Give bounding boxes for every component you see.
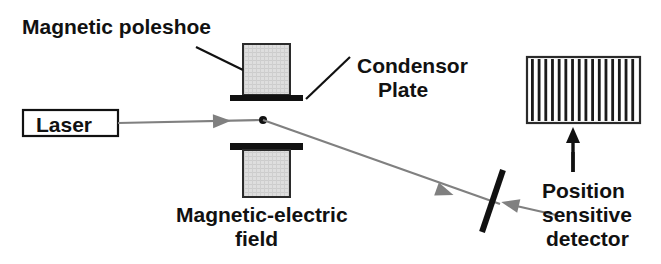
condensor-plate-label-line1: Condensor <box>357 54 468 77</box>
detector-stripe <box>631 59 634 121</box>
magnetic-electric-field-label-line1: Magnetic-electric <box>176 203 348 226</box>
mirror-pointer-head <box>501 199 520 213</box>
detector-stripe <box>618 59 621 121</box>
detector-stripe <box>625 59 628 121</box>
detector-stripe <box>585 59 588 121</box>
upper-condensor-plate <box>230 95 303 101</box>
laser-label: Laser <box>36 113 92 136</box>
position-sensitive-detector <box>527 57 640 123</box>
lower-pole-assembly <box>230 143 303 197</box>
beam-segment-horizontal <box>118 114 263 128</box>
mirror-element <box>482 170 503 232</box>
diagram-canvas: Laser <box>0 0 661 264</box>
detector-stripe <box>605 59 608 121</box>
beam-segment-deflected <box>263 120 500 204</box>
laser-source: Laser <box>23 110 118 136</box>
detector-stripe <box>571 59 574 121</box>
detector-arrow-head <box>566 127 580 143</box>
magnetic-electric-field-label-line2: field <box>235 227 278 250</box>
upper-pole-assembly <box>230 44 303 101</box>
physics-diagram: Laser <box>0 0 661 264</box>
detector-body <box>527 57 640 123</box>
condensor-leader-line-upper <box>306 57 350 99</box>
poleshoe-leader-line <box>196 47 243 70</box>
lower-magnetic-poleshoe <box>243 150 290 197</box>
upper-magnetic-poleshoe <box>243 44 290 95</box>
detector-stripe <box>598 59 601 121</box>
detector-stripe <box>564 59 567 121</box>
position-detector-label-line3: detector <box>546 227 629 250</box>
detector-stripe <box>558 59 561 121</box>
detector-stripe <box>531 59 534 121</box>
condensor-plate-label-line2: Plate <box>378 78 428 101</box>
position-detector-label-line2: sensitive <box>542 203 632 226</box>
detector-stripe <box>551 59 554 121</box>
beam-line-incident <box>118 120 263 123</box>
beam-arrowhead-incident <box>213 114 231 128</box>
position-detector-label-line1: Position <box>542 179 625 202</box>
detector-stripe <box>611 59 614 121</box>
detector-stripe <box>538 59 541 121</box>
magnetic-poleshoe-label: Magnetic poleshoe <box>22 15 211 38</box>
detector-stripe <box>578 59 581 121</box>
beam-line-deflected <box>263 120 500 204</box>
lower-condensor-plate <box>230 143 303 150</box>
detector-stripe <box>544 59 547 121</box>
detector-stripe <box>591 59 594 121</box>
